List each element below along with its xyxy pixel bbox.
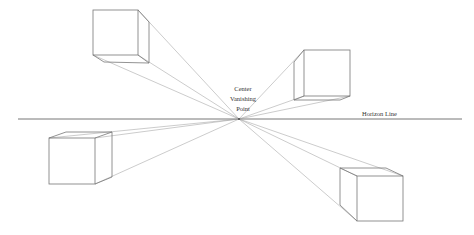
vanishing-point-dot	[238, 118, 240, 120]
label-vanishing: Vanishing	[230, 95, 257, 102]
horizon-line-label: Horizon Line	[362, 110, 397, 117]
cube-top-right	[294, 50, 350, 100]
cube-bottom-left	[49, 132, 112, 184]
perspective-rays	[49, 10, 403, 221]
perspective-diagram: Center Vanishing Point Horizon Line	[0, 0, 474, 235]
label-center: Center	[234, 85, 252, 92]
vanishing-point-label: Center Vanishing Point	[230, 85, 257, 112]
label-point: Point	[236, 105, 250, 112]
cube-bottom-right	[340, 168, 403, 221]
cube-top-left	[93, 10, 149, 63]
